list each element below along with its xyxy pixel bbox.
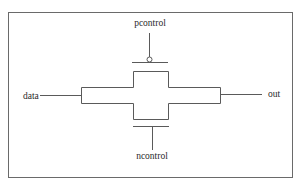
pcontrol-label: pcontrol [134, 18, 166, 28]
data-input-label: data [23, 91, 40, 101]
ncontrol-label: ncontrol [136, 151, 168, 161]
out-output-label: out [268, 89, 281, 99]
inversion-bubble-icon [147, 57, 152, 62]
transmission-gate-diagram: pcontrol ncontrol data out [0, 0, 302, 186]
transistor-channel-body [82, 72, 221, 120]
